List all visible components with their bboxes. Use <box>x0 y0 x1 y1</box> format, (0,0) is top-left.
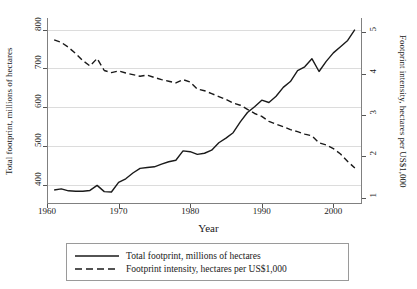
y-axis-left-tick-label: 500 <box>33 133 43 147</box>
data-series-lines <box>47 18 362 204</box>
y-axis-right-tick-mark <box>362 32 366 33</box>
y-axis-right-tick-labels: 12345 <box>368 18 382 204</box>
y-axis-left-tick-labels: 400500600700800 <box>22 18 43 204</box>
y-axis-right-tick-label: 4 <box>368 69 378 74</box>
y-axis-left-tick-mark <box>43 30 47 31</box>
x-axis-tick-label: 1980 <box>181 206 199 216</box>
y-axis-left-tick-label: 400 <box>33 172 43 186</box>
y-axis-right-tick-mark <box>362 156 366 157</box>
y-axis-left-tick-mark <box>43 185 47 186</box>
legend-item: Total footprint, millions of hectares <box>75 251 340 261</box>
y-axis-right-tick-label: 1 <box>368 193 378 198</box>
series-line <box>54 40 355 168</box>
y-axis-right-title: Footprint intensity, hectares per US$1,0… <box>396 18 409 204</box>
y-axis-right-tick-mark <box>362 74 366 75</box>
y-axis-left-tick-mark <box>43 68 47 69</box>
legend-label: Total footprint, millions of hectares <box>126 251 261 261</box>
legend-swatch-solid <box>75 252 119 260</box>
y-axis-right-tick-label: 2 <box>368 151 378 156</box>
y-axis-right-tick-mark <box>362 198 366 199</box>
y-axis-left-tick-mark <box>43 107 47 108</box>
x-axis-title: Year <box>0 222 417 234</box>
legend-label: Footprint intensity, hectares per US$1,0… <box>126 264 287 274</box>
x-axis-tick-label: 1960 <box>38 206 56 216</box>
y-axis-left-title: Total footprint, millions of hectares <box>2 18 15 204</box>
y-axis-left-tick-mark <box>43 146 47 147</box>
x-axis-tick-label: 1990 <box>253 206 271 216</box>
chart-figure: Total footprint, millions of hectares 40… <box>0 0 417 289</box>
y-axis-right-tick-label: 3 <box>368 110 378 115</box>
plot-area <box>47 18 362 204</box>
y-axis-left-tick-label: 800 <box>33 17 43 31</box>
legend-item: Footprint intensity, hectares per US$1,0… <box>75 264 340 274</box>
y-axis-right-tick-mark <box>362 115 366 116</box>
y-axis-right-tick-label: 5 <box>368 27 378 32</box>
x-axis-tick-label: 2000 <box>324 206 342 216</box>
series-line <box>54 30 355 192</box>
y-axis-left-tick-label: 600 <box>33 94 43 108</box>
y-axis-left-tick-label: 700 <box>33 55 43 69</box>
x-axis-tick-labels: 19601970198019902000 <box>47 206 362 220</box>
x-axis-tick-label: 1970 <box>110 206 128 216</box>
legend-swatch-dashed <box>75 265 119 273</box>
chart-legend: Total footprint, millions of hectaresFoo… <box>66 243 349 281</box>
